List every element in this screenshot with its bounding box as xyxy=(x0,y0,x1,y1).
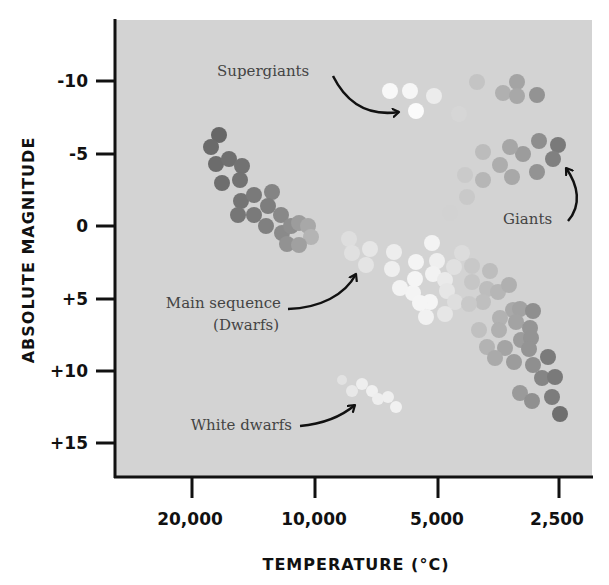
star-dot xyxy=(230,207,246,223)
star-dot xyxy=(550,137,566,153)
chart-canvas: -10 -5 0 +5 +10 +15 20,000 10,000 5,000 … xyxy=(0,0,609,585)
star-dot xyxy=(341,231,357,247)
star-dot xyxy=(337,375,347,385)
star-dot xyxy=(491,322,507,338)
annotation-giants: Giants xyxy=(503,210,552,228)
star-dot xyxy=(424,235,440,251)
star-dot xyxy=(525,303,541,319)
y-axis-ticks xyxy=(96,81,115,443)
star-dot xyxy=(362,241,378,257)
x-tick-label: 20,000 xyxy=(157,509,223,529)
star-dot xyxy=(356,378,368,390)
star-dot xyxy=(471,322,487,338)
star-dot xyxy=(234,158,250,174)
star-dot xyxy=(475,144,491,160)
star-dot xyxy=(501,277,517,293)
star-dot xyxy=(502,139,518,155)
hr-diagram-chart: -10 -5 0 +5 +10 +15 20,000 10,000 5,000 … xyxy=(0,0,609,585)
annotation-main-sequence: Main sequence xyxy=(166,294,281,312)
star-dot xyxy=(525,357,541,373)
star-dot xyxy=(386,244,402,260)
star-dot xyxy=(457,167,473,183)
star-dot xyxy=(482,263,498,279)
star-dot xyxy=(521,341,537,357)
x-tick-label: 10,000 xyxy=(281,509,347,529)
star-dot xyxy=(408,103,424,119)
annotation-dwarfs: (Dwarfs) xyxy=(213,316,279,334)
star-dot xyxy=(390,401,402,413)
y-tick-label: +10 xyxy=(50,361,88,381)
star-dot xyxy=(264,184,280,200)
star-dot xyxy=(544,389,560,405)
star-dot xyxy=(260,198,276,214)
star-dot xyxy=(508,314,524,330)
y-tick-label: +15 xyxy=(50,433,88,453)
star-dot xyxy=(529,164,545,180)
star-dot xyxy=(246,187,262,203)
star-dot xyxy=(475,172,491,188)
star-dot xyxy=(531,133,547,149)
star-dot xyxy=(475,294,491,310)
star-dot xyxy=(214,175,230,191)
star-dot xyxy=(258,218,274,234)
star-dot xyxy=(454,245,470,261)
annotation-white-dwarfs: White dwarfs xyxy=(191,416,292,434)
star-dot xyxy=(246,207,262,223)
star-dot xyxy=(412,295,428,311)
y-tick-label: -5 xyxy=(69,144,88,164)
star-dot xyxy=(418,309,434,325)
star-dot xyxy=(382,83,398,99)
star-dot xyxy=(346,385,358,397)
star-dot xyxy=(344,245,360,261)
star-dot xyxy=(408,254,424,270)
y-tick-label: +5 xyxy=(62,289,88,309)
y-axis-title: ABSOLUTE MAGNITUDE xyxy=(19,137,38,364)
star-dot xyxy=(437,306,453,322)
star-dot xyxy=(545,151,561,167)
star-dot xyxy=(459,189,475,205)
star-dot xyxy=(524,393,540,409)
star-dot xyxy=(442,205,458,221)
star-dot xyxy=(506,354,522,370)
y-tick-label: -10 xyxy=(57,71,88,91)
star-dot xyxy=(509,74,525,90)
star-dot xyxy=(407,271,423,287)
y-axis-tick-labels: -10 -5 0 +5 +10 +15 xyxy=(50,71,88,453)
star-dot xyxy=(529,87,545,103)
star-dot xyxy=(372,393,384,405)
star-dot xyxy=(504,169,520,185)
star-dot xyxy=(382,391,394,403)
star-dot xyxy=(540,349,556,365)
star-dot xyxy=(384,261,400,277)
star-dot xyxy=(392,280,408,296)
star-dot xyxy=(495,85,511,101)
star-dot xyxy=(487,350,503,366)
star-dot xyxy=(461,296,477,312)
star-dot xyxy=(203,139,219,155)
x-axis-ticks xyxy=(192,477,559,498)
star-dot xyxy=(464,274,480,290)
star-dot xyxy=(446,259,462,275)
x-axis-tick-labels: 20,000 10,000 5,000 2,500 xyxy=(157,509,584,529)
y-tick-label: 0 xyxy=(76,216,88,236)
x-axis-title: TEMPERATURE (°C) xyxy=(263,555,450,574)
star-dot xyxy=(232,172,248,188)
star-dot xyxy=(509,88,525,104)
star-dot xyxy=(492,157,508,173)
star-dot xyxy=(469,74,485,90)
star-dot xyxy=(552,406,568,422)
x-tick-label: 5,000 xyxy=(410,509,464,529)
x-tick-label: 2,500 xyxy=(530,509,584,529)
annotation-supergiants: Supergiants xyxy=(217,62,309,80)
star-dot xyxy=(464,258,480,274)
star-dot xyxy=(451,106,467,122)
star-dot xyxy=(358,257,374,273)
star-dot xyxy=(402,83,418,99)
star-dot xyxy=(426,88,442,104)
star-dot xyxy=(547,369,563,385)
star-dot xyxy=(291,237,307,253)
